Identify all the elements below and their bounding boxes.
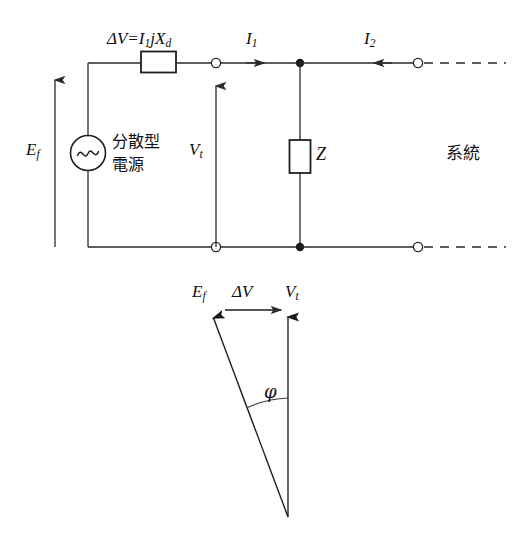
emf-label-Ef: Ef [26, 141, 40, 161]
circuit-impedance-branch [290, 63, 311, 247]
diagram-canvas [0, 0, 531, 537]
phasor-diagram [214, 310, 289, 517]
reactance-drop-label: ΔV=I1jXd [107, 30, 171, 50]
circuit-bottom-rail [88, 242, 506, 251]
grid-label: 系統 [446, 144, 480, 163]
terminal-bottom-right [413, 242, 422, 251]
figure-root: ΔV=I1jXd I1 I2 Ef Vt Z 分散型 電源 系統 Ef ΔV V… [0, 0, 531, 537]
circuit-source-branch [71, 63, 106, 247]
source-label-line1: 分散型 [112, 133, 160, 151]
phasor-label-Ef: Ef [192, 283, 206, 303]
phi-angle-label: φ [264, 381, 277, 402]
impedance-label-Z: Z [316, 145, 326, 163]
terminal-voltage-label-Vt: Vt [189, 141, 203, 161]
circuit-top-rail [88, 52, 506, 73]
phasor-vector-Ef [214, 318, 289, 517]
phasor-label-deltaV: ΔV [232, 283, 252, 300]
current2-label: I2 [364, 30, 375, 50]
reactance-box-Xd [141, 52, 176, 73]
source-label-line2: 電源 [112, 156, 144, 174]
current1-label: I1 [246, 30, 257, 50]
impedance-box-Z [290, 140, 311, 173]
phasor-label-Vt: Vt [285, 283, 299, 303]
terminal-top-left [211, 58, 220, 67]
terminal-top-right [413, 58, 422, 67]
